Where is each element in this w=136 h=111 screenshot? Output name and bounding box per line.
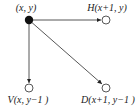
- h-node: [102, 16, 110, 24]
- h-label: H(x+1, y): [86, 2, 127, 14]
- v-label: V(x, y−1 ): [8, 94, 50, 106]
- d-label: D(x+1, y−1 ): [80, 94, 135, 106]
- d-node: [102, 84, 110, 92]
- edge-origin-to-d: [29, 20, 102, 84]
- neighbor-diagram: (x, y) H(x+1, y) V(x, y−1 ) D(x+1, y−1 ): [0, 0, 136, 111]
- origin-label: (x, y): [16, 2, 37, 14]
- v-node: [25, 84, 33, 92]
- origin-node: [25, 16, 33, 24]
